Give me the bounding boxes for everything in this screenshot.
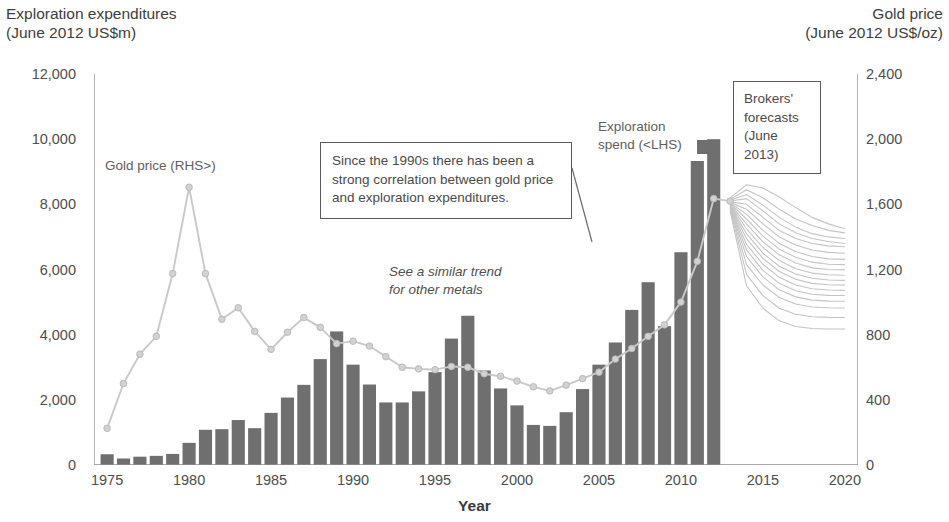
left-axis-tick-labels: 12,00010,0008,0006,0004,0002,0000 [0,74,86,465]
gold-price-marker [563,382,570,389]
x-axis-tick-label: 2015 [747,472,779,488]
bar [133,457,146,465]
forecast-line-bundle [730,185,845,329]
gold-price-marker [481,370,488,377]
x-axis-tick-label: 2020 [829,472,861,488]
right-axis-tick-label: 1,600 [866,196,902,212]
bar [510,405,523,465]
gold-price-marker [137,351,144,358]
bar [461,316,474,465]
correlation-leader-line [572,168,592,242]
forecast-line [730,206,845,290]
exploration-spend-legend-swatch [697,140,709,154]
gold-price-marker [268,346,275,353]
gold-price-marker [219,316,226,323]
bar [117,458,130,465]
left-axis-tick-label: 10,000 [32,131,76,147]
bar [478,371,491,465]
bar [183,443,196,465]
left-axis-tick-label: 6,000 [40,262,76,278]
x-axis-tick-label: 1975 [91,472,123,488]
bar [560,412,573,465]
gold-price-marker [694,258,701,265]
bar [265,413,278,465]
gold-price-marker [120,380,127,387]
gold-price-marker [350,338,357,345]
bar [101,454,114,465]
bar [314,359,327,465]
left-axis-tick-label: 8,000 [40,196,76,212]
similar-trend-note: See a similar trend for other metals [389,263,502,299]
bar [543,426,556,465]
bar [150,456,163,465]
x-axis-tick-label: 1995 [419,472,451,488]
correlation-callout: Since the 1990s there has been a strong … [320,142,572,219]
gold-price-marker [530,384,537,391]
x-axis-tick-label: 1980 [173,472,205,488]
gold-price-marker [284,329,291,336]
right-axis-tick-label: 1,200 [866,262,902,278]
gold-price-marker [301,314,308,321]
bar [281,398,294,465]
bar [379,402,392,465]
gold-price-marker [628,345,635,352]
x-axis-tick-labels: 1975198019851990199520002005201020152020 [94,472,858,496]
gold-price-marker [497,373,504,380]
forecast-line [730,195,845,239]
gold-price-marker [579,375,586,382]
x-axis-tick-label: 1985 [255,472,287,488]
bar [412,391,425,465]
gold-price-marker [251,328,258,335]
bar [707,139,720,465]
bar [166,454,179,465]
gold-price-marker [333,340,340,347]
x-axis-tick-label: 1990 [337,472,369,488]
bar [199,430,212,465]
gold-price-marker [153,333,160,340]
right-axis-tick-label: 2,400 [866,66,902,82]
left-axis-tick-label: 4,000 [40,327,76,343]
bar [576,389,589,465]
bar [494,388,507,465]
right-axis-tick-labels: 2,4002,0001,6001,2008004000 [866,74,946,465]
bar [330,331,343,465]
gold-price-marker [432,366,439,373]
gold-price-marker [448,363,455,370]
left-axis-tick-label: 2,000 [40,392,76,408]
gold-price-marker [415,366,422,373]
gold-price-marker [186,184,193,191]
x-axis-tick-label: 2010 [665,472,697,488]
bar [592,365,605,465]
bar [658,326,671,465]
bar [625,310,638,465]
brokers-forecast-callout: Brokers' forecasts (June 2013) [733,81,821,174]
bar [642,282,655,465]
left-axis-title: Exploration expenditures (June 2012 US$m… [6,4,177,42]
forecast-line [730,190,845,233]
bar [297,385,310,465]
gold-price-marker [710,195,717,202]
chart-root: Exploration expenditures (June 2012 US$m… [0,0,949,522]
gold-price-marker [317,324,324,331]
bar [346,365,359,465]
gold-price-marker [514,378,521,385]
bar [445,339,458,465]
right-axis-tick-label: 400 [866,392,890,408]
gold-price-marker [596,369,603,376]
bar [248,428,261,465]
bar [674,252,687,465]
exploration-spend-series-label: Exploration spend (<LHS) [598,118,682,154]
gold-price-marker [727,198,734,205]
gold-price-marker [202,270,209,277]
gold-price-marker [678,299,685,306]
left-axis-tick-label: 0 [68,457,76,473]
gold-price-series-label: Gold price (RHS>) [105,157,216,174]
left-axis-tick-label: 12,000 [32,66,76,82]
gold-price-marker [383,353,390,360]
gold-price-marker [169,270,176,277]
x-axis-title: Year [0,497,949,515]
right-axis-tick-label: 800 [866,327,890,343]
right-axis-tick-label: 0 [866,457,874,473]
bar [363,385,376,465]
gold-price-marker [465,364,472,371]
